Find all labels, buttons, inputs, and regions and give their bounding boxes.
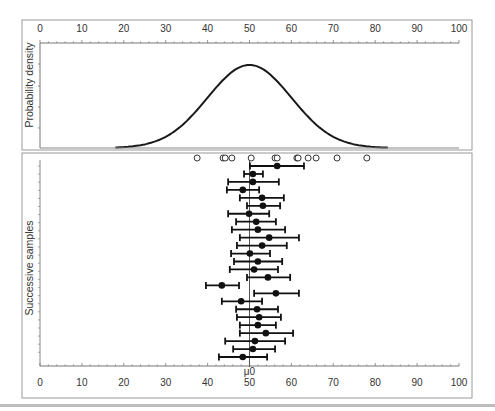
top-x-tick-label: 0 xyxy=(37,23,43,34)
top-y-axis-label: Probability density xyxy=(23,42,35,128)
top-x-tick-label: 60 xyxy=(286,23,298,34)
bottom-x-tick-label: 10 xyxy=(76,377,88,388)
bottom-x-tick-label: 90 xyxy=(412,377,424,388)
open-circle-point xyxy=(305,155,311,161)
top-x-tick-label: 40 xyxy=(202,23,214,34)
top-x-tick-label: 10 xyxy=(76,23,88,34)
sample-mean-dot xyxy=(256,314,263,321)
sample-mean-dot xyxy=(265,274,272,281)
open-circle-point xyxy=(222,155,228,161)
bottom-x-tick-label: 60 xyxy=(286,377,298,388)
top-panel-frame xyxy=(22,20,472,150)
sample-mean-dot xyxy=(250,171,257,178)
sample-mean-dot xyxy=(253,218,260,225)
bottom-x-tick-label: 100 xyxy=(451,377,468,388)
sample-mean-dot xyxy=(219,282,226,289)
top-x-tick-label: 100 xyxy=(451,23,468,34)
bottom-x-tick-label: 40 xyxy=(202,377,214,388)
bottom-x-tick-label: 30 xyxy=(160,377,172,388)
sample-mean-dot xyxy=(247,250,254,257)
sample-mean-dot xyxy=(238,298,245,305)
open-circle-point xyxy=(364,155,370,161)
open-circle-point xyxy=(313,155,319,161)
sample-mean-dot xyxy=(274,163,281,170)
bottom-x-tick-label: 20 xyxy=(118,377,130,388)
sample-mean-dot xyxy=(255,322,262,329)
figure: 0102030405060708090100 Probability densi… xyxy=(0,0,495,411)
top-x-tick-label: 20 xyxy=(118,23,130,34)
bottom-x-tick-label: 70 xyxy=(328,377,340,388)
bottom-y-axis-label: Successive samples xyxy=(23,220,35,315)
sample-mean-dot xyxy=(255,226,262,233)
bottom-x-tick-label: 0 xyxy=(37,377,43,388)
sample-mean-dot xyxy=(259,242,266,249)
bottom-x-tick-label: 50 xyxy=(244,377,256,388)
open-circle-point xyxy=(194,155,200,161)
top-x-tick-label: 30 xyxy=(160,23,172,34)
open-circle-point xyxy=(248,155,254,161)
open-circle-point xyxy=(334,155,340,161)
mu0-label: μ0 xyxy=(244,366,256,377)
sample-mean-dot xyxy=(239,354,246,361)
open-circle-point xyxy=(274,155,280,161)
sample-mean-dot xyxy=(259,195,266,202)
sample-mean-dot xyxy=(250,179,257,186)
sample-mean-dot xyxy=(251,266,258,273)
top-x-tick-label: 80 xyxy=(370,23,382,34)
sample-mean-dot xyxy=(254,306,261,313)
open-circle-point xyxy=(295,155,301,161)
sample-mean-dot xyxy=(263,330,270,337)
top-x-tick-label: 70 xyxy=(328,23,340,34)
sample-mean-dot xyxy=(246,210,253,217)
sample-mean-dot xyxy=(260,202,267,209)
open-circle-point xyxy=(229,155,235,161)
bottom-divider xyxy=(0,404,495,407)
sample-mean-dot xyxy=(239,187,246,194)
sample-mean-dot xyxy=(266,234,273,241)
bottom-x-tick-label: 80 xyxy=(370,377,382,388)
sample-mean-dot xyxy=(273,290,280,297)
sample-mean-dot xyxy=(255,258,262,265)
top-x-tick-label: 50 xyxy=(244,23,256,34)
sample-mean-dot xyxy=(250,346,257,353)
sample-mean-dot xyxy=(252,338,259,345)
top-x-tick-label: 90 xyxy=(412,23,424,34)
